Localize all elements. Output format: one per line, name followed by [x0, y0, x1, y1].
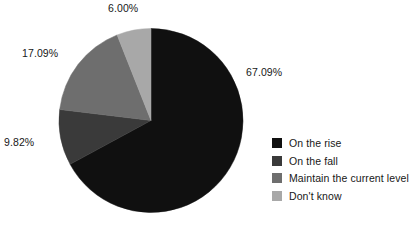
legend-swatch-on-the-rise	[272, 138, 282, 148]
pie-slices	[59, 28, 243, 212]
chart-legend: On the rise On the fall Maintain the cur…	[272, 137, 409, 202]
legend-label-on-the-fall: On the fall	[289, 155, 338, 167]
legend-swatch-maintain-the-current-level	[272, 173, 282, 183]
slice-value-label-maintain-the-current-level: 17.09%	[22, 47, 58, 59]
legend-item-on-the-rise: On the rise	[272, 137, 409, 149]
legend-item-on-the-fall: On the fall	[272, 155, 409, 167]
slice-value-label-dont-know: 6.00%	[108, 2, 138, 14]
slice-value-label-on-the-fall: 9.82%	[4, 136, 34, 148]
legend-label-maintain-the-current-level: Maintain the current level	[289, 172, 409, 184]
legend-item-dont-know: Don't know	[272, 190, 409, 202]
legend-swatch-on-the-fall	[272, 156, 282, 166]
legend-swatch-dont-know	[272, 191, 282, 201]
slice-value-label-on-the-rise: 67.09%	[246, 66, 282, 78]
legend-label-on-the-rise: On the rise	[289, 137, 341, 149]
legend-label-dont-know: Don't know	[289, 190, 342, 202]
pie-chart: 67.09% 9.82% 17.09% 6.00% On the rise On…	[0, 0, 414, 230]
legend-item-maintain-the-current-level: Maintain the current level	[272, 172, 409, 184]
